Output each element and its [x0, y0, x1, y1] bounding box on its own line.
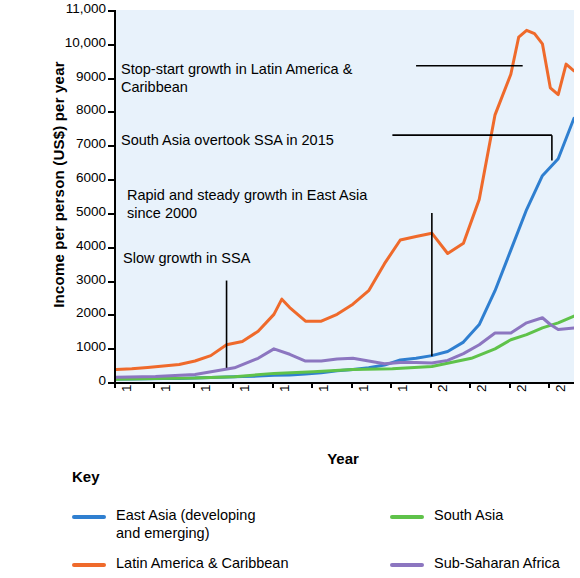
- series-line: [116, 318, 574, 378]
- annotation-southasia: South Asia overtook SSA in 2015: [121, 131, 334, 149]
- y-tick-label: 9000: [40, 69, 106, 84]
- legend-label: Sub-Saharan Africa: [434, 554, 560, 572]
- y-tick-label: 10,000: [40, 35, 106, 50]
- legend-swatch: [390, 515, 424, 519]
- y-tick-label: 5000: [40, 204, 106, 219]
- annotation-latam: Stop-start growth in Latin America & Car…: [121, 60, 352, 96]
- legend-title: Key: [72, 468, 100, 485]
- annotation-ssa: Slow growth in SSA: [123, 249, 250, 267]
- legend-swatch: [72, 563, 106, 567]
- y-tick-label: 8000: [40, 102, 106, 117]
- chart-legend: Key East Asia (developing and emerging)S…: [72, 468, 580, 578]
- chart-figure: Income per person (US$) per year 0100020…: [0, 0, 580, 578]
- y-tick-label: 3000: [40, 272, 106, 287]
- legend-label: South Asia: [434, 506, 503, 524]
- x-axis-title: Year: [114, 450, 572, 467]
- y-tick-label: 1000: [40, 339, 106, 354]
- y-tick-label: 11,000: [40, 1, 106, 16]
- legend-swatch: [390, 563, 424, 567]
- annotation-eastasia: Rapid and steady growth in East Asia sin…: [127, 186, 367, 222]
- legend-label: East Asia (developing and emerging): [116, 506, 255, 542]
- y-tick-label: 7000: [40, 136, 106, 151]
- legend-swatch: [72, 515, 106, 519]
- legend-label: Latin America & Caribbean: [116, 554, 289, 572]
- y-tick-label: 4000: [40, 238, 106, 253]
- series-line: [116, 316, 574, 379]
- y-tick-label: 2000: [40, 305, 106, 320]
- y-tick-label: 6000: [40, 170, 106, 185]
- y-tick-label: 0: [40, 373, 106, 388]
